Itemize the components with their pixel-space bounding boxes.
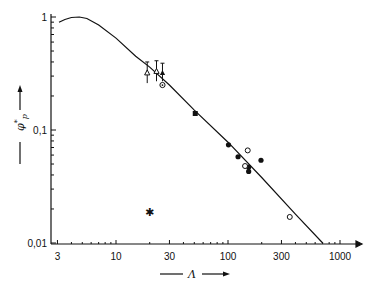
filled-triangle-errorbar-point bbox=[160, 63, 165, 81]
y-title-arrowhead-icon bbox=[18, 85, 23, 92]
filled-circles-point bbox=[226, 142, 231, 147]
triangle-errorbar-point bbox=[154, 61, 159, 82]
x-tick-label: 1000 bbox=[329, 251, 352, 262]
log-log-chart: 0,010,11 310301003001000 ✱ φ*p Λ bbox=[0, 0, 371, 292]
y-tick-label: 0,1 bbox=[33, 125, 47, 136]
circle-dot-point bbox=[160, 82, 165, 87]
open-triangle-errorbar-point bbox=[145, 62, 150, 83]
data-points: ✱ bbox=[145, 61, 293, 220]
x-tick-label: 30 bbox=[164, 251, 176, 262]
y-tick-label: 0,01 bbox=[28, 238, 48, 249]
x-axis-title: Λ bbox=[187, 268, 196, 281]
y-axis-title-group: φ*p bbox=[13, 85, 29, 164]
star-point: ✱ bbox=[145, 206, 154, 219]
x-axis-arrowhead bbox=[356, 241, 362, 247]
svg-text:✱: ✱ bbox=[145, 206, 154, 219]
axes bbox=[51, 14, 362, 247]
x-tick-label: 3 bbox=[55, 251, 61, 262]
open-circles-point bbox=[245, 148, 250, 153]
filled-square-point bbox=[193, 111, 198, 116]
y-ticks bbox=[51, 17, 56, 243]
y-tick-labels: 0,010,11 bbox=[28, 12, 48, 249]
x-tick-label: 10 bbox=[110, 251, 122, 262]
open-circles-point bbox=[243, 164, 248, 169]
x-tick-label: 100 bbox=[220, 251, 237, 262]
x-tick-label: 300 bbox=[273, 251, 290, 262]
theory-curve bbox=[59, 17, 323, 243]
filled-circles-point bbox=[235, 154, 240, 159]
x-axis-title-group: Λ bbox=[160, 268, 230, 281]
filled-circles-point bbox=[246, 169, 251, 174]
y-axis-title: φ*p bbox=[13, 114, 29, 131]
y-tick-label: 1 bbox=[41, 12, 47, 23]
x-title-arrowhead-icon bbox=[223, 272, 230, 277]
filled-circles-point bbox=[258, 158, 263, 163]
open-circles-point bbox=[287, 214, 292, 219]
x-tick-labels: 310301003001000 bbox=[55, 251, 352, 262]
